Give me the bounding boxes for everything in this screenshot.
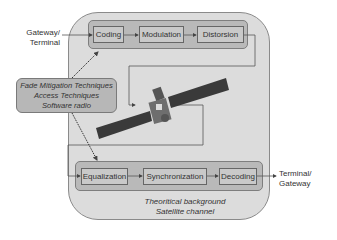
output-label-line2: Gateway xyxy=(279,179,311,189)
input-label-line2: Terminal xyxy=(26,38,60,48)
output-label: Terminal/ Gateway xyxy=(279,169,311,189)
panel-caption: Theoritical background Satellite channel xyxy=(120,197,250,217)
input-label-line1: Gateway/ xyxy=(26,28,60,38)
techniques-box: Fade Mitigation Techniques Access Techni… xyxy=(16,78,117,113)
software-radio-label: Software radio xyxy=(17,101,116,111)
caption-line1: Theoritical background xyxy=(120,197,250,207)
input-label: Gateway/ Terminal xyxy=(26,28,60,48)
access-techniques-label: Access Techniques xyxy=(17,91,116,101)
fade-mitigation-label: Fade Mitigation Techniques xyxy=(17,81,116,91)
caption-line2: Satellite channel xyxy=(120,207,250,217)
output-label-line1: Terminal/ xyxy=(279,169,311,179)
